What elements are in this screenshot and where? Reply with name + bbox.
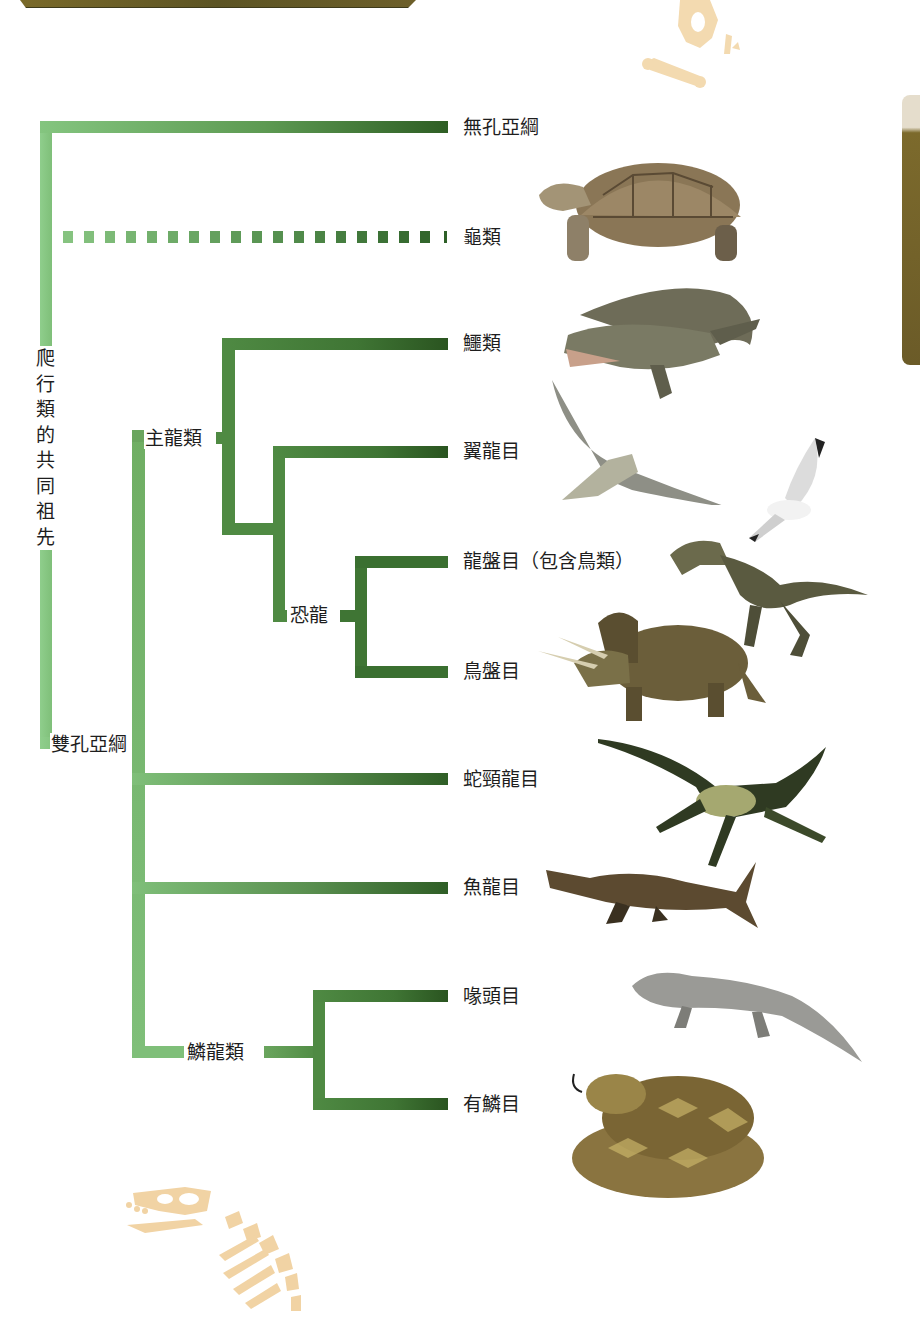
fossil-skull-icon: [640, 0, 760, 90]
root-label: 爬 行 類 的 共 同 祖 先: [33, 346, 57, 550]
leaf-label-saurischia: 龍盤目（包含鳥類）: [463, 550, 634, 572]
node-label-lepidosauria: 鱗龍類: [186, 1041, 245, 1063]
pterosaur-illustration-icon: [548, 380, 733, 505]
branch-crocodiles: [222, 338, 448, 350]
leaf-label-turtles: 龜類: [463, 226, 501, 248]
leaf-label-ornithischia: 鳥盤目: [463, 660, 520, 682]
diapsida-trunk: [132, 430, 145, 1058]
branch-ichthyosaurs: [132, 882, 448, 894]
branch-saurischia: [355, 556, 448, 568]
branch-anapsida: [40, 121, 448, 133]
lepidosauria-stub: [264, 1046, 319, 1058]
gull-illustration-icon: [745, 438, 830, 543]
branch-diapsida-to-archosauria: [132, 430, 144, 442]
rattlesnake-illustration-icon: [568, 1048, 768, 1200]
tortoise-illustration-icon: [533, 155, 748, 267]
branch-to-dinosauria: [273, 610, 287, 622]
ornithodira-trunk: [273, 446, 285, 622]
node-label-dinosauria: 恐龍: [289, 604, 329, 626]
fossil-skeleton-icon: [125, 1185, 315, 1317]
node-label-archosauria: 主龍類: [144, 427, 203, 449]
plesiosaur-illustration-icon: [596, 737, 831, 867]
side-tab: [902, 95, 920, 365]
triceratops-illustration-icon: [538, 603, 768, 725]
leaf-label-pterosaurs: 翼龍目: [463, 440, 520, 462]
branch-ornithischia: [355, 666, 448, 678]
branch-pterosaurs: [273, 446, 448, 458]
dinosauria-trunk: [355, 556, 367, 678]
ichthyosaur-illustration-icon: [546, 862, 761, 932]
branch-diapsida-to-lepidosauria: [132, 1046, 184, 1058]
leaf-label-plesiosaurs: 蛇頸龍目: [463, 768, 539, 790]
branch-rhynchocephalia: [313, 990, 448, 1002]
leaf-label-squamata: 有鱗目: [463, 1093, 520, 1115]
top-banner: [20, 0, 416, 8]
archosauria-trunk: [222, 338, 235, 535]
lepidosauria-trunk: [313, 990, 325, 1110]
leaf-label-rhynchocephalia: 喙頭目: [463, 985, 520, 1007]
branch-plesiosaurs: [132, 773, 448, 785]
node-label-diapsida: 雙孔亞綱: [50, 733, 128, 755]
leaf-label-ichthyosaurs: 魚龍目: [463, 876, 520, 898]
leaf-label-crocodiles: 鱷類: [463, 332, 501, 354]
leaf-label-anapsida: 無孔亞綱: [463, 116, 539, 138]
branch-squamata: [313, 1098, 448, 1110]
